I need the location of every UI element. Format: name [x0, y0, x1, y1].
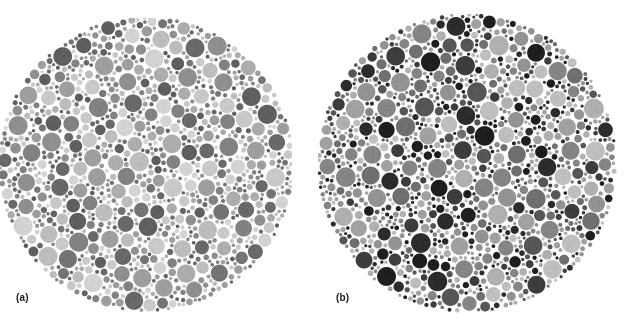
panel-label-a: (a)	[16, 292, 29, 303]
plate-dot-field-a	[0, 18, 292, 313]
ishihara-plate-a	[0, 18, 292, 313]
figure-root: (a) (b)	[0, 0, 624, 329]
panel-label-b: (b)	[336, 292, 349, 303]
plate-dot-field-b	[318, 14, 618, 313]
ishihara-plate-b	[318, 14, 618, 313]
